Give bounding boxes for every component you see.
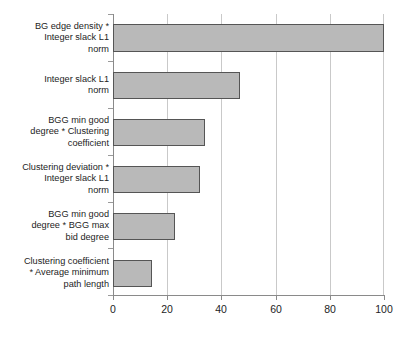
category-label-1: Integer slack L1 norm — [5, 74, 113, 97]
bar-1 — [113, 72, 240, 99]
category-label-0-line-0: BG edge density * — [5, 21, 109, 32]
bar-5 — [113, 260, 152, 287]
category-label-4-line-1: degree * BGG max — [5, 220, 109, 231]
category-label-3-line-1: Integer slack L1 — [5, 173, 109, 184]
gridline-100 — [383, 14, 384, 295]
x-axis-tick — [221, 295, 222, 300]
category-label-0-line-2: norm — [5, 44, 109, 55]
category-label-4-line-2: bid degree — [5, 232, 109, 243]
category-label-1-line-0: Integer slack L1 — [5, 74, 109, 85]
x-axis-tick — [167, 295, 168, 300]
gridline-20 — [167, 14, 168, 295]
x-tick-label-4: 80 — [324, 303, 336, 315]
category-label-1-line-1: norm — [5, 85, 109, 96]
gridline-40 — [221, 14, 222, 295]
x-tick-label-2: 40 — [215, 303, 227, 315]
category-label-5-line-2: path length — [5, 279, 109, 290]
x-tick-label-1: 20 — [161, 303, 173, 315]
x-axis-tick — [384, 295, 385, 300]
category-label-5-line-0: Clustering coefficient — [5, 256, 109, 267]
category-label-2-line-0: BGG min good — [5, 115, 109, 126]
x-axis-tick — [330, 295, 331, 300]
category-label-0-line-1: Integer slack L1 — [5, 32, 109, 43]
x-tick-label-0: 0 — [110, 303, 116, 315]
x-tick-label-3: 60 — [270, 303, 282, 315]
bar-chart-figure: BG edge density * Integer slack L1 norm … — [0, 0, 407, 337]
gridline-80 — [330, 14, 331, 295]
category-label-5-line-1: * Average minimum — [5, 267, 109, 278]
category-label-2-line-2: coefficient — [5, 138, 109, 149]
category-label-0: BG edge density * Integer slack L1 norm — [5, 21, 113, 55]
category-label-3-line-2: norm — [5, 185, 109, 196]
category-label-3: Clustering deviation * Integer slack L1 … — [5, 162, 113, 196]
bar-3 — [113, 166, 200, 193]
y-axis-spine — [113, 14, 114, 295]
category-label-2: BGG min good degree * Clustering coeffic… — [5, 115, 113, 149]
x-tick-label-5: 100 — [375, 303, 393, 315]
gridline-60 — [276, 14, 277, 295]
category-label-4: BGG min good degree * BGG max bid degree — [5, 209, 113, 243]
x-axis-spine — [113, 295, 385, 296]
bar-4 — [113, 213, 175, 240]
x-axis-tick — [113, 295, 114, 300]
x-axis-tick — [276, 295, 277, 300]
plot-area — [113, 14, 384, 295]
bar-2 — [113, 119, 205, 146]
category-axis-labels: BG edge density * Integer slack L1 norm … — [0, 0, 113, 295]
category-label-3-line-0: Clustering deviation * — [5, 162, 109, 173]
category-label-4-line-0: BGG min good — [5, 209, 109, 220]
category-label-2-line-1: degree * Clustering — [5, 126, 109, 137]
bar-0 — [113, 24, 384, 52]
category-label-5: Clustering coefficient * Average minimum… — [5, 256, 113, 290]
